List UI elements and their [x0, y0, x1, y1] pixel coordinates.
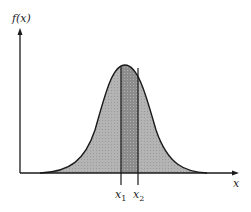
y-axis-arrow-icon	[18, 28, 23, 35]
y-axis-label: f(x)	[11, 12, 31, 25]
x-axis-arrow-icon	[232, 171, 239, 176]
x1-label: x1	[115, 188, 126, 203]
x2-label: x2	[133, 188, 144, 203]
interval-area	[40, 65, 207, 173]
density-diagram: f(x) x x1 x2	[0, 0, 251, 212]
x-axis-label: x	[233, 177, 240, 190]
